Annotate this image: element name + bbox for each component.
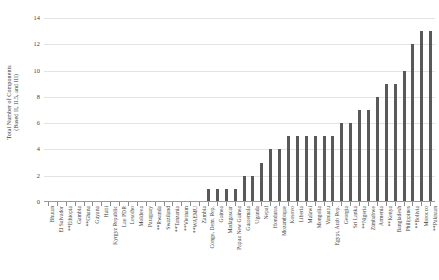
bar-slot: [106, 18, 115, 202]
x-label-slot: Egypt, Arab Rep.: [329, 206, 338, 280]
bar: [323, 136, 326, 202]
y-axis-tick-label: 10: [34, 67, 40, 73]
x-label-slot: Uganda: [248, 206, 257, 280]
bar-slot: [88, 18, 97, 202]
x-label-slot: Vanuatu: [320, 206, 329, 280]
bar-slot: [275, 18, 284, 202]
x-label-slot: Guyana: [88, 206, 97, 280]
bar: [340, 123, 343, 202]
y-axis-tick-label: 8: [37, 94, 40, 100]
bar-slot: [231, 18, 240, 202]
bar-slot: [53, 18, 62, 202]
y-axis-tick-label: 4: [37, 146, 40, 152]
bar-slot: [222, 18, 231, 202]
x-label-slot: El Salvador: [53, 206, 62, 280]
bar-slot: [240, 18, 249, 202]
bar: [278, 149, 281, 202]
bar-series: [44, 18, 435, 202]
bar-slot: [257, 18, 266, 202]
bar-slot: [213, 18, 222, 202]
x-label-slot: Armenia: [373, 206, 382, 280]
bar-slot: [44, 18, 53, 202]
bar-slot: [71, 18, 80, 202]
x-label-slot: Lao PDR: [115, 206, 124, 280]
x-label-slot: **Vietnam: [177, 206, 186, 280]
bar: [394, 84, 397, 202]
x-axis-category-label: **Pakistan: [433, 206, 439, 231]
bar-slot: [151, 18, 160, 202]
bar-slot: [248, 18, 257, 202]
x-label-slot: **Rwanda: [151, 206, 160, 280]
x-label-slot: Malawi: [302, 206, 311, 280]
bar-slot: [417, 18, 426, 202]
bar-slot: [364, 18, 373, 202]
bar: [243, 176, 246, 202]
x-label-slot: Honduras: [266, 206, 275, 280]
bar-slot: [266, 18, 275, 202]
bar-slot: [382, 18, 391, 202]
bar: [385, 84, 388, 202]
bar-chart: Total Number of Components (Based II, II…: [0, 0, 439, 280]
x-label-slot: Bhutan: [44, 206, 53, 280]
y-axis-tick-labels: 02468101214: [26, 0, 42, 205]
bar: [260, 163, 263, 202]
x-label-slot: Philippines: [400, 206, 409, 280]
bar: [429, 31, 432, 202]
x-label-slot: **Ethiopia: [62, 206, 71, 280]
bar: [296, 136, 299, 202]
y-axis-title-line-2: (Based II, II.5, and III): [13, 65, 20, 139]
bar-slot: [311, 18, 320, 202]
y-axis-title: Total Number of Components (Based II, II…: [0, 0, 26, 205]
x-label-slot: Mozambique: [275, 206, 284, 280]
bar-slot: [400, 18, 409, 202]
y-axis-tick-label: 2: [37, 173, 40, 179]
x-label-slot: Guinea: [213, 206, 222, 280]
bar-slot: [337, 18, 346, 202]
x-label-slot: Guatemala: [240, 206, 249, 280]
bar: [331, 136, 334, 202]
x-label-slot: Bangladesh: [391, 206, 400, 280]
bar-slot: [284, 18, 293, 202]
bar: [358, 110, 361, 202]
x-label-slot: **Ghana: [80, 206, 89, 280]
bar-slot: [195, 18, 204, 202]
x-label-slot: Haiti: [97, 206, 106, 280]
x-label-slot: Zambia: [195, 206, 204, 280]
y-axis-tick-label: 6: [37, 120, 40, 126]
bar: [287, 136, 290, 202]
y-axis-title-line-1: Total Number of Components: [6, 65, 13, 139]
bar-slot: [186, 18, 195, 202]
y-axis-tick-label: 14: [34, 15, 40, 21]
bar: [420, 31, 423, 202]
x-label-slot: Mongolia: [311, 206, 320, 280]
bar-slot: [160, 18, 169, 202]
bar: [349, 123, 352, 202]
bar-slot: [293, 18, 302, 202]
bar: [403, 71, 406, 202]
x-label-slot: Kosovo: [284, 206, 293, 280]
bar-slot: [204, 18, 213, 202]
bar: [411, 44, 414, 202]
x-label-slot: **WAEMU: [186, 206, 195, 280]
bar: [251, 176, 254, 202]
bar-slot: [329, 18, 338, 202]
bar-slot: [115, 18, 124, 202]
x-label-slot: Morocco: [417, 206, 426, 280]
x-label-slot: **Tanzania: [168, 206, 177, 280]
x-label-slot: Paraguay: [142, 206, 151, 280]
bar: [376, 97, 379, 202]
bar-slot: [142, 18, 151, 202]
bar-slot: [124, 18, 133, 202]
x-label-slot: Georgia: [337, 206, 346, 280]
bar-slot: [320, 18, 329, 202]
bar-slot: [346, 18, 355, 202]
bar-slot: [373, 18, 382, 202]
bar: [305, 136, 308, 202]
bar-slot: [80, 18, 89, 202]
x-label-slot: Sri Lanka: [346, 206, 355, 280]
bar-slot: [355, 18, 364, 202]
bar-slot: [391, 18, 400, 202]
x-label-slot: Zimbabwe: [364, 206, 373, 280]
bar-slot: [302, 18, 311, 202]
bar-slot: [409, 18, 418, 202]
